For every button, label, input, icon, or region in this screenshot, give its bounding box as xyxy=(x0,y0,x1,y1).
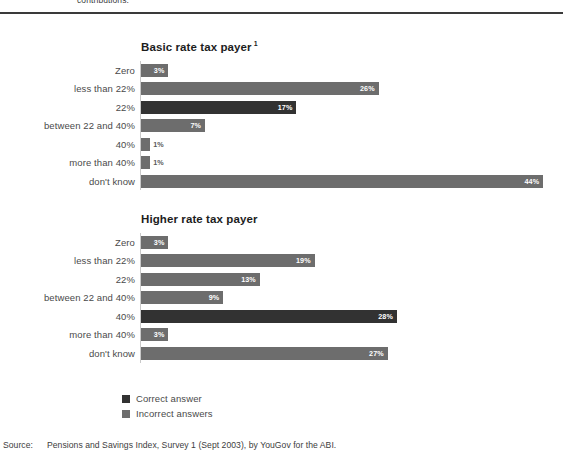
chart-basic-rate-tax-payer: Basic rate tax payer1 Zero3%less than 22… xyxy=(0,40,563,190)
bar-row: more than 40%1% xyxy=(141,153,563,172)
legend-item-incorrect: Incorrect answers xyxy=(122,406,213,421)
bar-incorrect-answer: 7% xyxy=(141,119,205,132)
bar-category-label: don't know xyxy=(1,176,141,187)
figure-page: contributions. Basic rate tax payer1 Zer… xyxy=(0,0,563,466)
bar-value-label: 13% xyxy=(241,275,256,284)
bar-incorrect-answer: 26% xyxy=(141,82,379,95)
bar-row: Zero3% xyxy=(141,233,563,252)
bar-row: don't know44% xyxy=(141,172,563,191)
bar-incorrect-answer: 13% xyxy=(141,273,260,286)
legend-label-correct: Correct answer xyxy=(136,393,202,404)
bar-value-label: 3% xyxy=(154,238,165,247)
plot-area-basic: Zero3%less than 22%26%22%17%between 22 a… xyxy=(140,61,563,191)
legend-item-correct: Correct answer xyxy=(122,391,213,406)
bar-category-label: between 22 and 40% xyxy=(1,292,141,303)
chart-higher-rate-tax-payer: Higher rate tax payer Zero3%less than 22… xyxy=(0,213,563,363)
bar-row: don't know27% xyxy=(141,344,563,363)
bar-category-label: Zero xyxy=(1,237,141,248)
bar-correct-answer: 17% xyxy=(141,101,296,114)
chart-title-higher-text: Higher rate tax payer xyxy=(141,213,258,225)
bar-category-label: less than 22% xyxy=(1,255,141,266)
legend-swatch-incorrect-icon xyxy=(122,410,130,418)
chart-title-basic: Basic rate tax payer1 xyxy=(141,40,563,53)
bar-category-label: between 22 and 40% xyxy=(1,120,141,131)
bar-value-label: 9% xyxy=(209,293,220,302)
bar-row: less than 22%19% xyxy=(141,252,563,271)
bar-value-label: 1% xyxy=(153,140,164,149)
bar-incorrect-answer: 44% xyxy=(141,175,543,188)
bar-category-label: 22% xyxy=(1,102,141,113)
legend-label-incorrect: Incorrect answers xyxy=(136,408,213,419)
bar-value-label: 28% xyxy=(378,312,393,321)
bar-value-label: 7% xyxy=(190,121,201,130)
bar-category-label: 22% xyxy=(1,274,141,285)
chart-legend: Correct answer Incorrect answers xyxy=(122,391,213,421)
bar-row: 22%13% xyxy=(141,270,563,289)
bar-value-label: 1% xyxy=(153,158,164,167)
bar-incorrect-answer: 27% xyxy=(141,347,388,360)
source-note-label: Source: xyxy=(3,440,47,450)
bar-value-label: 17% xyxy=(278,103,293,112)
bar-incorrect-answer: 9% xyxy=(141,291,223,304)
bar-incorrect-answer: 1% xyxy=(141,156,150,169)
bar-value-label: 27% xyxy=(369,349,384,358)
bar-category-label: Zero xyxy=(1,65,141,76)
bar-value-label: 3% xyxy=(154,330,165,339)
top-divider-rule xyxy=(0,12,563,14)
bar-row: between 22 and 40%9% xyxy=(141,289,563,308)
clipped-body-text: contributions. xyxy=(77,0,129,6)
bar-incorrect-answer: 19% xyxy=(141,254,315,267)
chart-title-higher: Higher rate tax payer xyxy=(141,213,563,225)
chart-title-basic-footnote-marker: 1 xyxy=(254,40,258,47)
bar-category-label: more than 40% xyxy=(1,157,141,168)
bar-incorrect-answer: 3% xyxy=(141,328,168,341)
bar-category-label: 40% xyxy=(1,139,141,150)
bar-incorrect-answer: 1% xyxy=(141,138,150,151)
bar-row: Zero3% xyxy=(141,61,563,80)
bar-incorrect-answer: 3% xyxy=(141,64,168,77)
bar-row: 22%17% xyxy=(141,98,563,117)
legend-swatch-correct-icon xyxy=(122,395,130,403)
bar-value-label: 19% xyxy=(296,256,311,265)
bar-category-label: more than 40% xyxy=(1,329,141,340)
bar-row: more than 40%3% xyxy=(141,326,563,345)
bar-row: 40%28% xyxy=(141,307,563,326)
source-note-text: Pensions and Savings Index, Survey 1 (Se… xyxy=(47,440,336,450)
chart-title-basic-text: Basic rate tax payer xyxy=(141,41,252,53)
bar-category-label: 40% xyxy=(1,311,141,322)
bar-value-label: 3% xyxy=(154,66,165,75)
bar-row: 40%1% xyxy=(141,135,563,154)
bar-correct-answer: 28% xyxy=(141,310,397,323)
source-note: Source:Pensions and Savings Index, Surve… xyxy=(3,440,336,450)
bar-incorrect-answer: 3% xyxy=(141,236,168,249)
bar-category-label: less than 22% xyxy=(1,83,141,94)
bar-value-label: 44% xyxy=(524,177,539,186)
bar-value-label: 26% xyxy=(360,84,375,93)
plot-area-higher: Zero3%less than 22%19%22%13%between 22 a… xyxy=(140,233,563,363)
bar-row: between 22 and 40%7% xyxy=(141,116,563,135)
bar-row: less than 22%26% xyxy=(141,79,563,98)
bar-category-label: don't know xyxy=(1,348,141,359)
